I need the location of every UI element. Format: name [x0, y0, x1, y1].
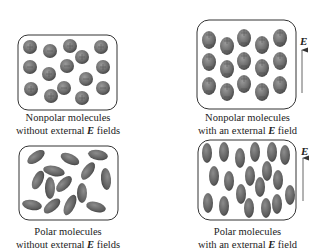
caption-polar-no-field: Polar molecules without external E field…: [8, 225, 128, 251]
panel-polar-with-field: [198, 140, 303, 220]
panel-nonpolar-no-field: [18, 35, 117, 110]
panel-polar-no-field: [19, 146, 118, 220]
caption-line1: Nonpolar molecules: [190, 111, 305, 124]
caption-line1: Polar molecules: [8, 225, 128, 238]
nonpolar-molecules: [23, 39, 110, 105]
field-label-top: E: [300, 35, 307, 48]
caption-line1: Polar molecules: [190, 225, 305, 238]
polar-molecules-aligned: [202, 142, 295, 218]
caption-line1: Nonpolar molecules: [8, 111, 128, 124]
polar-molecules-random: [21, 147, 112, 217]
caption-nonpolar-with-field: Nonpolar molecules with an external E fi…: [190, 111, 305, 137]
field-label-bottom: E: [301, 145, 308, 158]
caption-line2: without external E fields: [8, 124, 128, 137]
caption-line2: with an external E field: [190, 238, 305, 251]
caption-nonpolar-no-field: Nonpolar molecules without external E fi…: [8, 111, 128, 137]
induced-dipole-molecules: [202, 29, 287, 101]
caption-polar-with-field: Polar molecules with an external E field: [190, 225, 305, 251]
caption-line2: with an external E field: [190, 124, 305, 137]
panel-nonpolar-with-field: [197, 20, 302, 109]
caption-line2: without external E fields: [8, 238, 128, 251]
